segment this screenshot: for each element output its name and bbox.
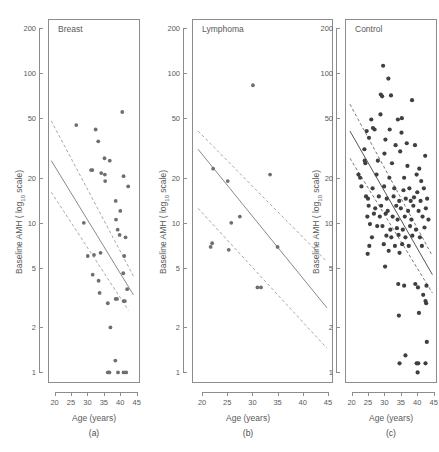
data-point	[410, 98, 414, 102]
data-point	[383, 137, 387, 141]
data-point	[413, 282, 417, 286]
data-point	[363, 161, 367, 165]
data-point	[392, 194, 396, 198]
data-point	[410, 234, 414, 238]
data-point	[384, 212, 388, 216]
data-point	[382, 184, 386, 188]
data-point	[402, 176, 406, 180]
data-point	[371, 186, 375, 190]
data-point	[409, 199, 413, 203]
data-point	[400, 242, 404, 246]
data-point	[380, 94, 384, 98]
data-point	[377, 194, 381, 198]
data-point	[422, 225, 426, 229]
data-point	[374, 172, 378, 176]
data-point	[397, 199, 401, 203]
data-point	[418, 199, 422, 203]
data-point	[392, 186, 396, 190]
data-point	[358, 176, 362, 180]
data-point	[417, 311, 421, 315]
data-point	[415, 172, 419, 176]
data-point	[375, 224, 379, 228]
data-point	[397, 313, 401, 317]
data-point	[407, 186, 411, 190]
data-point	[394, 204, 398, 208]
data-point	[389, 235, 393, 239]
data-point	[372, 212, 376, 216]
data-point	[416, 361, 420, 365]
data-point	[422, 186, 426, 190]
data-point	[408, 224, 412, 228]
data-point	[399, 131, 403, 135]
data-point	[407, 244, 411, 248]
data-point	[412, 195, 416, 199]
data-point	[414, 228, 418, 232]
data-point	[365, 129, 369, 133]
data-point	[390, 161, 394, 165]
data-point	[378, 112, 382, 116]
data-point	[420, 214, 424, 218]
data-point	[388, 127, 392, 131]
data-point	[406, 209, 410, 213]
data-point	[397, 251, 401, 255]
data-point	[381, 64, 385, 68]
data-point	[426, 218, 430, 222]
data-point	[384, 234, 388, 238]
data-point	[423, 154, 427, 158]
data-point	[368, 222, 372, 226]
data-point	[366, 252, 370, 256]
data-point	[417, 167, 421, 171]
data-point	[425, 197, 429, 201]
data-point	[396, 117, 400, 121]
data-point	[424, 284, 428, 288]
data-point	[378, 214, 382, 218]
data-point	[396, 233, 400, 237]
data-point	[415, 190, 419, 194]
data-point	[386, 76, 390, 80]
data-point	[403, 235, 407, 239]
data-point	[376, 159, 380, 163]
data-point	[369, 117, 373, 121]
data-point	[401, 188, 405, 192]
data-point	[418, 235, 422, 239]
data-point	[402, 284, 406, 288]
data-point	[367, 136, 371, 140]
data-point	[391, 214, 395, 218]
data-point	[362, 147, 366, 151]
data-point	[389, 93, 393, 97]
data-point	[372, 127, 376, 131]
data-point	[373, 206, 377, 210]
data-point	[394, 143, 398, 147]
data-point	[367, 204, 371, 208]
data-point	[382, 242, 386, 246]
data-point	[380, 224, 384, 228]
data-point	[387, 249, 391, 253]
data-point	[405, 164, 409, 168]
data-point	[379, 204, 383, 208]
data-point	[365, 214, 369, 218]
data-point	[423, 361, 427, 365]
data-point	[404, 197, 408, 201]
data-point	[403, 353, 407, 357]
data-point	[388, 228, 392, 232]
data-point	[397, 361, 401, 365]
data-point	[425, 340, 429, 344]
data-point	[366, 197, 370, 201]
data-point	[420, 244, 424, 248]
data-point	[370, 235, 374, 239]
data-point	[398, 149, 402, 153]
data-point	[424, 301, 428, 305]
scatter-layer	[0, 0, 439, 452]
data-point	[382, 151, 386, 155]
data-point	[403, 214, 407, 218]
data-point	[399, 206, 403, 210]
data-point	[393, 244, 397, 248]
data-point	[401, 228, 405, 232]
data-point	[409, 218, 413, 222]
data-point	[411, 204, 415, 208]
data-point	[396, 282, 400, 286]
data-point	[385, 197, 389, 201]
data-point	[387, 176, 391, 180]
data-point	[419, 179, 423, 183]
data-point	[395, 226, 399, 230]
